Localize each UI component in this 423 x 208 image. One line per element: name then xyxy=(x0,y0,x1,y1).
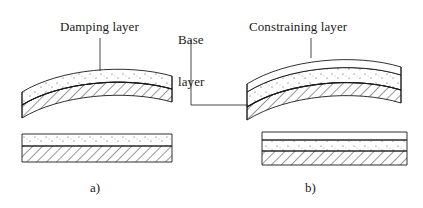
figure-root: Damping layer Base layer Constraining la… xyxy=(0,0,423,208)
panel-b-flat-constraining-layer xyxy=(262,132,407,140)
caption-panel-a: a) xyxy=(90,180,100,196)
panel-b-flat xyxy=(262,132,407,165)
label-constraining-layer: Constraining layer xyxy=(249,20,347,34)
label-damping-layer: Damping layer xyxy=(60,20,139,34)
caption-panel-b: b) xyxy=(305,180,316,196)
label-base-layer-line2: layer xyxy=(178,75,204,89)
panel-a-flat xyxy=(22,134,172,162)
panel-a-flat-damping-layer xyxy=(22,134,172,146)
panel-b-flat-base-layer xyxy=(262,151,407,165)
label-base-layer: Base layer xyxy=(178,5,204,117)
panel-b-flat-damping-layer xyxy=(262,140,407,151)
label-base-layer-line1: Base xyxy=(178,33,204,47)
panel-a-flat-base-layer xyxy=(22,146,172,162)
panel-b-curved xyxy=(247,60,401,120)
panel-a-curved xyxy=(22,69,172,118)
